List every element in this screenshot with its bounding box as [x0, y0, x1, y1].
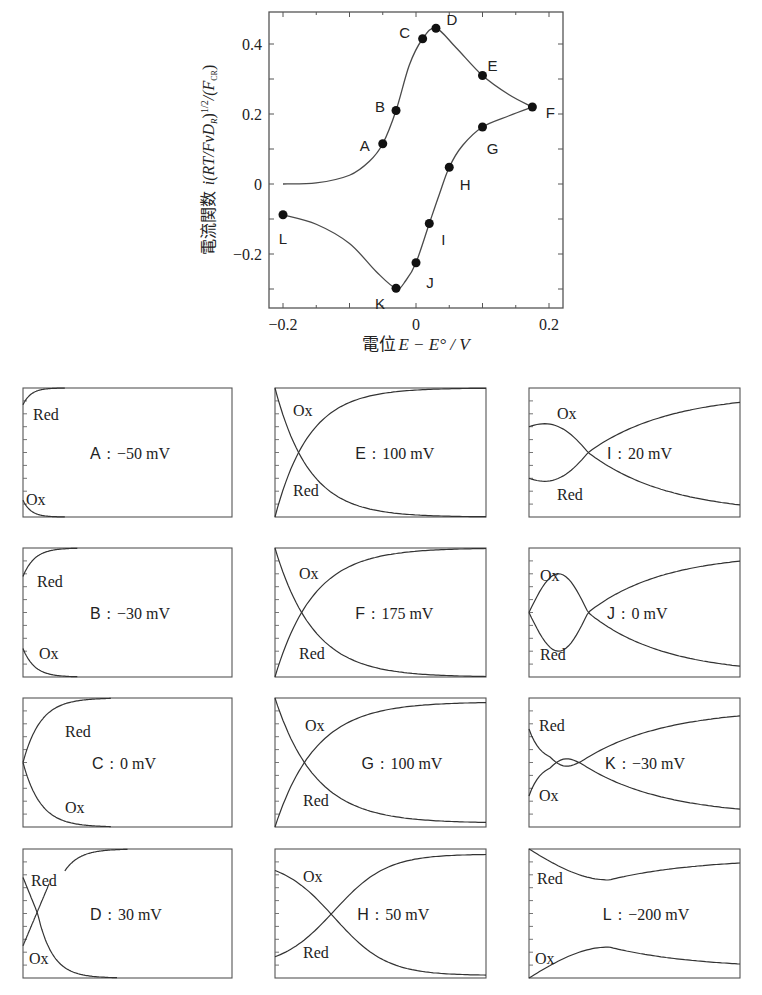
species-label-bottom: Red	[540, 646, 566, 663]
species-label-bottom: Red	[303, 944, 329, 961]
y-tick-label: 0	[254, 176, 262, 193]
panel-caption: I:20 mV	[607, 445, 672, 462]
point-label: H	[460, 176, 471, 193]
cyclic-voltammogram-plot: −0.200.2−0.200.20.4 ABCDEFGHIJKL 電位E − E…	[199, 11, 563, 354]
species-label-bottom: Ox	[39, 645, 59, 662]
species-label-bottom: Ox	[29, 950, 49, 967]
panel-j: OxRedJ:0 mV	[529, 548, 740, 677]
species-label-bottom: Ox	[535, 950, 555, 967]
data-point-f	[528, 103, 537, 112]
concentration-profile-panels: RedOxA:−50 mVRedOxB:−30 mVRedOxC:0 mVRed…	[23, 388, 740, 978]
panel-g: OxRedG:100 mV	[275, 698, 486, 827]
point-label: G	[487, 140, 499, 157]
data-point-l	[279, 210, 288, 219]
data-point-k	[392, 284, 401, 293]
panel-e: OxRedE:100 mV	[275, 388, 486, 517]
point-label: C	[399, 24, 410, 41]
panel-b: RedOxB:−30 mV	[23, 548, 232, 677]
data-point-a	[378, 139, 387, 148]
point-label: J	[426, 274, 434, 291]
point-label: D	[447, 11, 458, 28]
point-label: F	[546, 104, 555, 121]
point-label: L	[279, 230, 287, 247]
panel-caption: H:50 mV	[357, 906, 429, 923]
y-tick-label: −0.2	[233, 246, 262, 263]
panel-k: RedOxK:−30 mV	[529, 698, 740, 827]
y-axis-label: 電流関数i(RT/FvDR)1/2/(FCR)	[199, 65, 219, 255]
species-label-top: Red	[33, 406, 59, 423]
species-label-top: Ox	[305, 717, 325, 734]
panel-caption: D:30 mV	[90, 906, 162, 923]
species-label-bottom: Ox	[65, 799, 85, 816]
species-label-top: Red	[37, 573, 63, 590]
panel-a: RedOxA:−50 mV	[23, 388, 232, 517]
data-point-j	[412, 258, 421, 267]
data-point-d	[431, 24, 440, 33]
data-point-c	[418, 34, 427, 43]
panel-h: OxRedH:50 mV	[275, 849, 486, 978]
species-label-top: Red	[31, 872, 57, 889]
panel-i: OxRedI:20 mV	[529, 388, 740, 517]
point-label: E	[487, 57, 497, 74]
panel-c: RedOxC:0 mV	[23, 698, 232, 827]
svg-text:電流関数i(RT/FvDR)1/2/(FCR): 電流関数i(RT/FvDR)1/2/(FCR)	[199, 65, 219, 255]
species-label-top: Red	[537, 870, 563, 887]
cv-curve	[283, 107, 532, 289]
panel-d: RedOxD:30 mV	[23, 849, 232, 978]
species-label-bottom: Ox	[26, 491, 46, 508]
species-label-top: Ox	[299, 565, 319, 582]
species-label-bottom: Ox	[539, 787, 559, 804]
cv-curve	[283, 28, 532, 184]
species-label-top: Ox	[303, 868, 323, 885]
data-points: ABCDEFGHIJKL	[279, 11, 555, 312]
panel-f: OxRedF:175 mV	[275, 548, 486, 677]
species-label-top: Red	[65, 723, 91, 740]
data-point-i	[425, 219, 434, 228]
species-label-bottom: Red	[293, 482, 319, 499]
x-axis-label: 電位E − E° / V	[362, 335, 472, 354]
panel-l: RedOxL:−200 mV	[529, 849, 740, 978]
data-point-b	[392, 106, 401, 115]
data-point-g	[478, 122, 487, 131]
figure-canvas: −0.200.2−0.200.20.4 ABCDEFGHIJKL 電位E − E…	[0, 0, 762, 995]
data-point-e	[478, 71, 487, 80]
panel-caption: G:100 mV	[362, 755, 443, 772]
x-tick-label: 0.2	[539, 316, 559, 333]
y-tick-label: 0.2	[242, 106, 262, 123]
panel-caption: C:0 mV	[92, 755, 156, 772]
y-tick-label: 0.4	[242, 36, 262, 53]
point-label: A	[360, 137, 370, 154]
data-point-h	[445, 163, 454, 172]
species-label-top: Ox	[557, 405, 577, 422]
species-label-bottom: Red	[299, 645, 325, 662]
species-label-top: Red	[539, 717, 565, 734]
species-label-top: Ox	[540, 567, 560, 584]
species-label-top: Ox	[293, 402, 313, 419]
x-tick-label: 0	[412, 316, 420, 333]
x-tick-label: −0.2	[268, 316, 297, 333]
species-label-bottom: Red	[557, 486, 583, 503]
point-label: I	[441, 231, 445, 248]
point-label: K	[375, 295, 385, 312]
species-label-bottom: Red	[303, 792, 329, 809]
point-label: B	[375, 98, 385, 115]
